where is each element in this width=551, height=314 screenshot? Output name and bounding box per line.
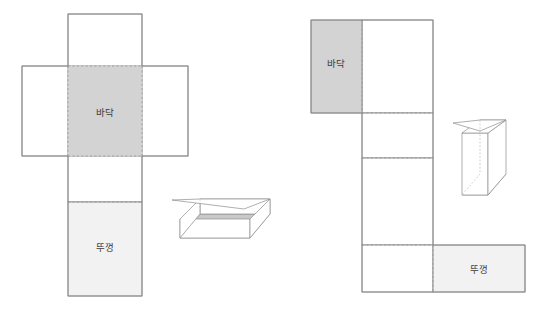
net2-lid-label: 뚜껑 xyxy=(470,264,489,275)
tall-box-front-wall xyxy=(462,133,488,195)
net1-side-panel xyxy=(68,156,142,202)
net2-top-right-panel xyxy=(362,20,433,113)
net2-bottom-label: 바닥 xyxy=(327,58,346,69)
flat-box-net: 바닥 뚜껑 xyxy=(22,14,188,296)
box-net-diagram: 바닥 뚜껑 xyxy=(0,0,551,314)
net1-top-flap xyxy=(68,14,142,66)
net1-left-flap xyxy=(22,66,68,156)
diagram-canvas: 바닥 뚜껑 xyxy=(0,0,551,314)
net2-mid-panel-1 xyxy=(362,113,433,158)
net1-lid-label: 뚜껑 xyxy=(96,242,115,253)
flat-open-box-isometric xyxy=(172,199,270,238)
net1-right-flap xyxy=(142,66,188,156)
net2-mid-panel-2 xyxy=(362,158,433,245)
tall-open-box-isometric xyxy=(453,120,506,195)
net2-mid-panel-3 xyxy=(362,245,433,292)
net1-bottom-label: 바닥 xyxy=(96,107,115,118)
